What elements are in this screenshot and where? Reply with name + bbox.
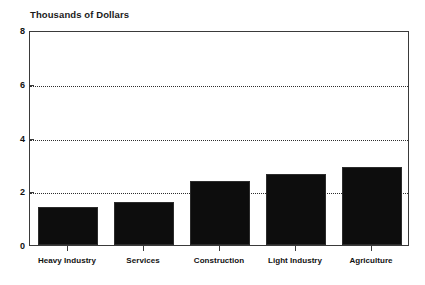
y-axis-tick-mark [29, 192, 34, 193]
x-axis-tick-mark [219, 246, 220, 251]
x-axis-tick-label: Construction [194, 256, 244, 265]
x-axis-tick-label: Services [126, 256, 159, 265]
plot-area [29, 31, 409, 246]
chart-title: Thousands of Dollars [30, 9, 129, 20]
x-axis-tick-mark [67, 246, 68, 251]
gridline [30, 86, 408, 87]
x-axis-tick-label: Agriculture [349, 256, 392, 265]
x-axis-tick-labels: Heavy IndustryServicesConstructionLight … [29, 256, 409, 270]
y-axis-tick-label: 4 [20, 134, 25, 144]
y-axis-tick-label: 0 [20, 241, 25, 251]
bar [38, 207, 98, 245]
y-axis-tick-mark [29, 85, 34, 86]
y-axis-tick-label: 8 [20, 26, 25, 36]
y-axis-tick-labels: 02468 [10, 31, 25, 246]
x-axis-tick-mark [295, 246, 296, 251]
y-axis-tick-marks [29, 31, 35, 246]
x-axis-tick-marks [29, 246, 409, 252]
bar [266, 174, 326, 245]
x-axis-tick-mark [143, 246, 144, 251]
bar-chart: Thousands of Dollars 02468 Heavy Industr… [0, 0, 425, 285]
gridline [30, 140, 408, 141]
y-axis-tick-label: 2 [20, 187, 25, 197]
x-axis-tick-label: Light Industry [268, 256, 322, 265]
bar [342, 167, 402, 245]
x-axis-tick-label: Heavy Industry [38, 256, 96, 265]
y-axis-tick-label: 6 [20, 80, 25, 90]
y-axis-tick-mark [29, 139, 34, 140]
x-axis-tick-mark [371, 246, 372, 251]
bar [114, 202, 174, 245]
bar [190, 181, 250, 246]
